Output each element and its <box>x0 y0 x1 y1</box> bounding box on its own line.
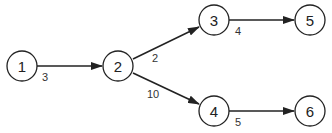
node-label-4: 4 <box>210 103 218 120</box>
node-label-6: 6 <box>306 103 314 120</box>
node-2: 2 <box>103 51 133 81</box>
node-1: 1 <box>7 51 37 81</box>
node-label-5: 5 <box>306 12 314 29</box>
edge-2-3: 2 <box>133 27 199 64</box>
edge-1-2: 3 <box>37 66 102 83</box>
node-6: 6 <box>295 96 325 126</box>
graph-diagram: 3 2 10 4 5 1 2 3 4 5 6 <box>0 0 332 133</box>
edge-weight-2-3: 2 <box>152 52 158 64</box>
edge-2-4: 10 <box>133 73 199 104</box>
node-label-2: 2 <box>114 58 122 75</box>
node-5: 5 <box>295 5 325 35</box>
edge-weight-2-4: 10 <box>147 88 159 100</box>
edge-4-6: 5 <box>229 111 294 128</box>
node-label-1: 1 <box>18 58 26 75</box>
edge-weight-3-5: 4 <box>235 25 241 37</box>
node-3: 3 <box>199 5 229 35</box>
edge-weight-1-2: 3 <box>42 71 48 83</box>
node-label-3: 3 <box>210 12 218 29</box>
node-4: 4 <box>199 96 229 126</box>
edge-3-5: 4 <box>229 20 294 37</box>
edge-weight-4-6: 5 <box>235 116 241 128</box>
